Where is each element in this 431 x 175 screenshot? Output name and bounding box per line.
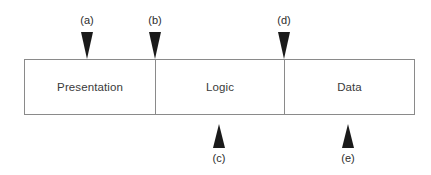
marker-d-label: (d)	[277, 14, 290, 27]
tier-logic: Logic	[156, 60, 285, 114]
marker-a: (a)	[67, 14, 107, 59]
tier-logic-label: Logic	[206, 81, 234, 93]
tier-bar: Presentation Logic Data	[24, 59, 415, 115]
tier-data: Data	[285, 60, 414, 114]
arrow-up-icon-e	[342, 124, 354, 148]
tier-presentation: Presentation	[25, 60, 156, 114]
tier-data-label: Data	[337, 81, 362, 93]
marker-b-label: (b)	[148, 14, 161, 27]
marker-c-label: (c)	[213, 152, 226, 165]
arrow-up-icon-c	[213, 124, 225, 148]
arrow-down-icon-d	[278, 32, 290, 59]
marker-d: (d)	[264, 14, 304, 59]
arrow-down-icon-b	[149, 32, 161, 59]
arrow-down-icon-a	[81, 32, 93, 59]
marker-b: (b)	[135, 14, 175, 59]
marker-c: (c)	[199, 124, 239, 165]
marker-e: (e)	[328, 124, 368, 165]
tier-presentation-label: Presentation	[57, 81, 123, 93]
marker-a-label: (a)	[80, 14, 93, 27]
marker-e-label: (e)	[341, 152, 354, 165]
diagram-canvas: (a) (b) (d) Presentation Logic Data (c) …	[0, 0, 431, 175]
